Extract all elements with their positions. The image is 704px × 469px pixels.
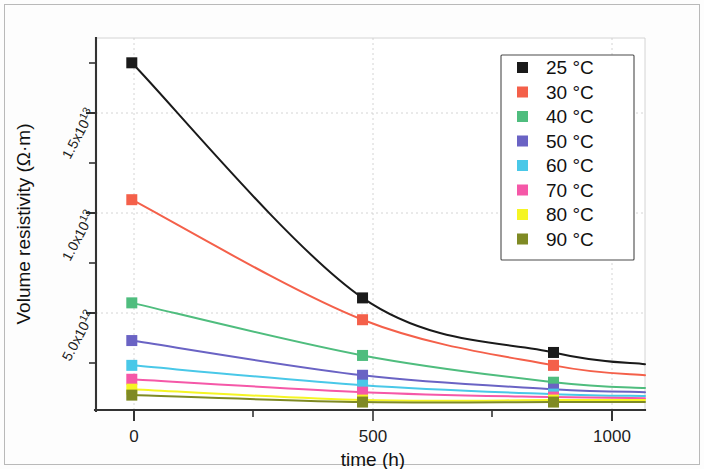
legend-swatch-30c [517, 87, 528, 98]
x-tick-label-1000: 1000 [593, 427, 631, 446]
figure-page: 1.5x1013 1.0x1013 5.0x1012 0 500 1000 ti… [0, 0, 704, 469]
x-tick-labels: 0 500 1000 [129, 427, 631, 446]
legend-label-25c: 25 °C [546, 57, 594, 78]
data-point-marker [126, 360, 137, 371]
legend-swatch-40c [517, 111, 528, 122]
legend-label-70c: 70 °C [546, 180, 594, 201]
data-point-marker [126, 297, 137, 308]
y-axis-title: Volume resistivity (Ω·m) [13, 123, 34, 324]
data-point-marker [357, 397, 368, 408]
data-point-marker [126, 57, 137, 68]
legend-swatch-70c [517, 185, 528, 196]
data-point-marker [126, 194, 137, 205]
legend-label-50c: 50 °C [546, 131, 594, 152]
x-axis-title: time (h) [341, 449, 405, 469]
volume-resistivity-chart: 1.5x1013 1.0x1013 5.0x1012 0 500 1000 ti… [0, 0, 704, 469]
data-point-marker [126, 374, 137, 385]
legend-swatch-80c [517, 209, 528, 220]
data-point-marker [126, 335, 137, 346]
data-point-marker [548, 360, 559, 371]
legend-swatch-25c [517, 62, 528, 73]
legend-swatch-60c [517, 160, 528, 171]
legend-swatch-90c [517, 234, 528, 245]
y-tick-labels: 1.5x1013 1.0x1013 5.0x1012 [57, 105, 98, 363]
legend-label-90c: 90 °C [546, 229, 594, 250]
x-axis-ticks [134, 410, 612, 421]
data-point-marker [548, 397, 559, 408]
y-tick-label-5e12: 5.0x1012 [57, 307, 98, 363]
data-point-marker [357, 370, 368, 381]
data-point-marker [548, 347, 559, 358]
legend[interactable]: 25 °C30 °C40 °C50 °C60 °C70 °C80 °C90 °C [501, 55, 634, 260]
legend-label-40c: 40 °C [546, 106, 594, 127]
x-tick-label-0: 0 [129, 427, 138, 446]
legend-label-30c: 30 °C [546, 82, 594, 103]
y-tick-label-10e12: 1.0x1013 [57, 207, 98, 263]
data-point-marker [357, 314, 368, 325]
x-tick-label-500: 500 [359, 427, 387, 446]
data-point-marker [357, 292, 368, 303]
legend-swatch-50c [517, 136, 528, 147]
legend-label-60c: 60 °C [546, 155, 594, 176]
legend-label-80c: 80 °C [546, 204, 594, 225]
data-point-marker [126, 390, 137, 401]
data-point-marker [357, 350, 368, 361]
